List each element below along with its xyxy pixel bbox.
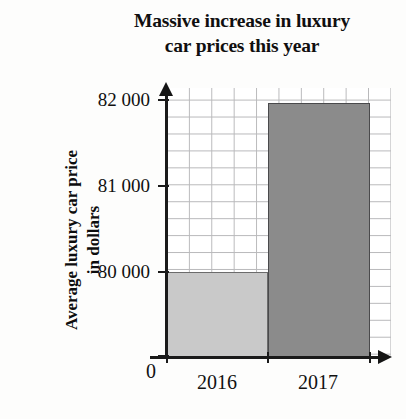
x-axis-label-2016: 2016 [162,371,272,394]
y-tick-82000 [158,99,169,101]
y-axis-label-80000: 80 000 [58,261,150,283]
y-label-80000-wrap: 80 000 [58,261,150,281]
x-axis-label-2017: 2017 [263,371,373,394]
y-axis-title: Average luxury car price in dollars [61,95,105,385]
bar-2016 [167,272,268,357]
y-axis-title-line-1: Average luxury car price [61,95,83,385]
y-tick-80000 [158,271,169,273]
y-axis-label-82000: 82 000 [58,89,150,111]
origin-label: 0 [140,360,162,383]
chart-title: Massive increase in luxury car prices th… [84,8,400,58]
y-axis-title-line-2: in dollars [83,95,105,385]
y-axis-arrow-icon [159,82,173,96]
y-axis-line [165,93,168,358]
x-tick-end [369,352,371,363]
y-axis-label-81000: 81 000 [58,175,150,197]
bar-2017 [268,103,370,357]
x-tick-middle [267,352,269,363]
x-axis-line [150,356,382,359]
y-label-82000-wrap: 82 000 [58,89,150,109]
x-axis-arrow-icon [378,350,392,364]
chart-title-line-2: car prices this year [84,33,400,58]
plot-area [167,88,391,357]
y-tick-81000 [158,185,169,187]
x-tick-start [166,352,168,363]
chart-title-line-1: Massive increase in luxury [84,8,400,33]
y-label-81000-wrap: 81 000 [58,175,150,195]
